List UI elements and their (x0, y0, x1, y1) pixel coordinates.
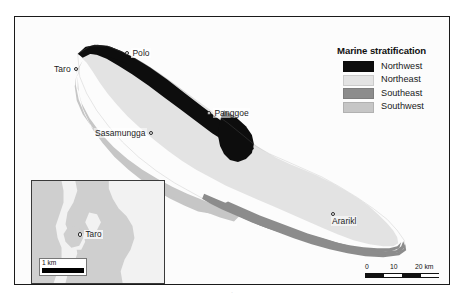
legend-label-northwest: Northwest (381, 62, 422, 71)
legend-label-southeast: Southeast (381, 89, 422, 98)
legend-item-southwest: Southwest (343, 102, 450, 113)
legend-swatch-northwest (343, 61, 374, 72)
scale-seg-4 (421, 273, 440, 278)
legend-swatch-southwest (343, 102, 374, 113)
scale-seg-3 (402, 273, 421, 278)
legend-swatch-southeast (343, 88, 374, 99)
inset-scale-bar-graphic (42, 268, 84, 273)
inset-map: Taro 1 km (31, 180, 165, 284)
scale-bar-graphic (365, 273, 439, 278)
legend-item-northeast: Northeast (343, 75, 450, 86)
scale-seg-1 (365, 273, 384, 278)
legend-item-northwest: Northwest (343, 61, 450, 72)
scale-tick-20: 20 km (415, 264, 434, 271)
scale-tick-0: 0 (365, 264, 369, 271)
inset-scale-label: 1 km (42, 260, 84, 267)
legend-swatch-northeast (343, 75, 374, 86)
legend: Marine stratification Northwest Northeas… (327, 45, 450, 115)
scale-seg-2 (384, 273, 403, 278)
legend-title: Marine stratification (337, 45, 450, 56)
scale-tick-10: 10 (390, 264, 398, 271)
page-artifact: · (231, 289, 233, 295)
legend-label-northeast: Northeast (381, 75, 421, 84)
inset-scale-bar: 1 km (39, 258, 87, 276)
scale-bar-ticks: 0 10 20 km (365, 264, 450, 273)
figure-page: Taro Polo Panggoe Sasamungga Ararikl Mar… (0, 0, 466, 299)
map-frame: Taro Polo Panggoe Sasamungga Ararikl Mar… (14, 16, 450, 285)
scale-bar: 0 10 20 km (365, 264, 450, 278)
legend-item-southeast: Southeast (343, 88, 450, 99)
legend-label-southwest: Southwest (381, 102, 424, 111)
